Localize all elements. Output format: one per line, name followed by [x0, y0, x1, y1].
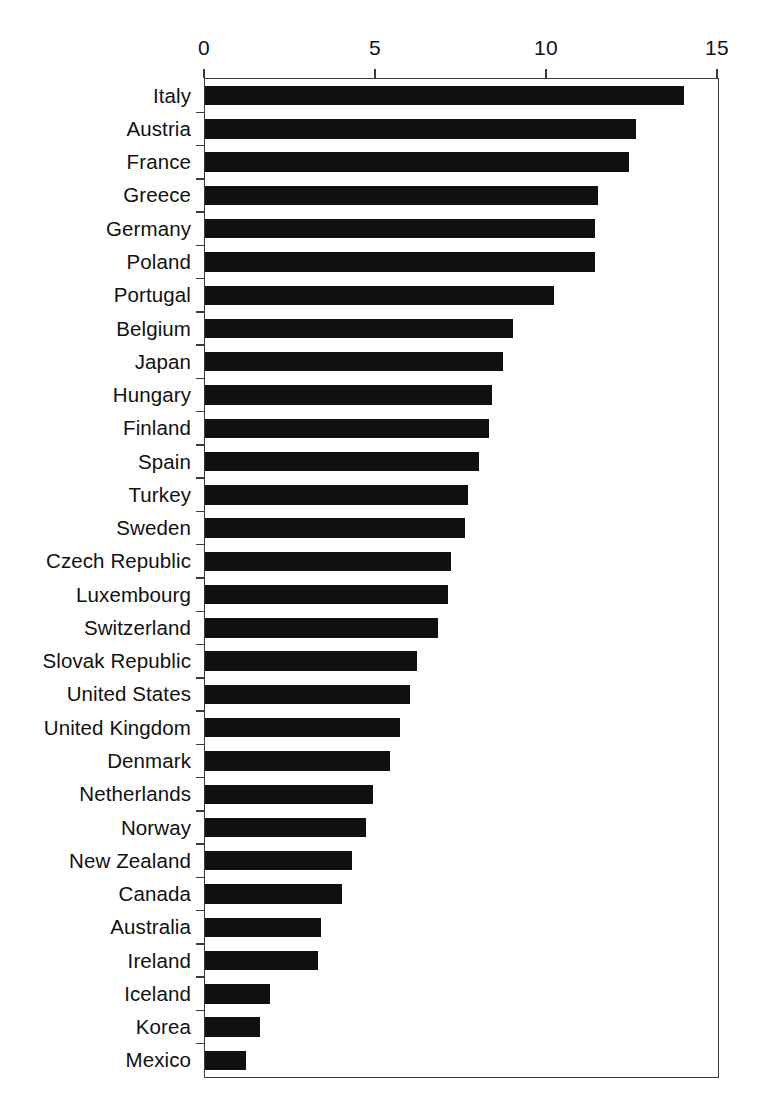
bar	[205, 884, 342, 903]
y-axis-tick	[196, 777, 205, 779]
bar	[205, 319, 513, 338]
bar	[205, 485, 468, 504]
bar	[205, 851, 352, 870]
y-axis-tick	[196, 976, 205, 978]
bar	[205, 419, 489, 438]
y-axis-category-label: Switzerland	[84, 616, 191, 640]
y-axis-tick	[196, 245, 205, 247]
y-axis-category-label: Denmark	[107, 749, 191, 773]
bar	[205, 984, 270, 1003]
y-axis-tick	[196, 145, 205, 147]
bar	[205, 352, 503, 371]
plot-area: ItalyAustriaFranceGreeceGermanyPolandPor…	[204, 78, 719, 1078]
y-axis-tick	[196, 877, 205, 879]
y-axis-tick	[196, 1043, 205, 1045]
bar	[205, 951, 318, 970]
y-axis-tick	[196, 278, 205, 280]
bar	[205, 518, 465, 537]
y-axis-category-label: Australia	[110, 915, 191, 939]
y-axis-category-label: Slovak Republic	[43, 649, 192, 673]
y-axis-category-label: United States	[67, 682, 191, 706]
y-axis-category-label: Sweden	[116, 516, 191, 540]
y-axis-tick	[196, 477, 205, 479]
bar	[205, 152, 629, 171]
bar	[205, 1017, 260, 1036]
y-axis-tick	[196, 112, 205, 114]
y-axis-category-label: Italy	[153, 84, 191, 108]
y-axis-tick	[196, 444, 205, 446]
y-axis-category-label: Finland	[123, 416, 191, 440]
y-axis-category-label: Spain	[138, 450, 191, 474]
y-axis-category-label: Greece	[123, 183, 191, 207]
bar	[205, 585, 448, 604]
y-axis-tick	[196, 1010, 205, 1012]
x-axis-tick-label: 5	[369, 36, 381, 60]
y-axis-tick	[196, 344, 205, 346]
bar	[205, 751, 390, 770]
bar	[205, 685, 410, 704]
y-axis-category-label: Belgium	[116, 317, 191, 341]
y-axis-tick	[196, 511, 205, 513]
y-axis-tick	[196, 577, 205, 579]
y-axis-tick	[196, 211, 205, 213]
bar	[205, 385, 492, 404]
y-axis-category-label: Mexico	[125, 1048, 191, 1072]
x-axis-tick	[716, 69, 718, 78]
y-axis-tick	[196, 611, 205, 613]
y-axis-tick	[196, 544, 205, 546]
y-axis-category-label: Iceland	[124, 982, 191, 1006]
y-axis-tick	[196, 910, 205, 912]
y-axis-category-label: Hungary	[113, 383, 191, 407]
bar	[205, 918, 321, 937]
y-axis-tick	[196, 710, 205, 712]
bar	[205, 219, 595, 238]
bar	[205, 818, 366, 837]
bar	[205, 785, 373, 804]
bar	[205, 452, 479, 471]
bar	[205, 552, 451, 571]
y-axis-tick	[196, 677, 205, 679]
y-axis-tick	[196, 378, 205, 380]
bar	[205, 651, 417, 670]
y-axis-category-label: Netherlands	[79, 782, 191, 806]
y-axis-tick	[196, 311, 205, 313]
bar	[205, 186, 598, 205]
x-axis-tick-label: 0	[198, 36, 210, 60]
y-axis-category-label: France	[127, 150, 191, 174]
bar	[205, 618, 438, 637]
y-axis-tick	[196, 843, 205, 845]
y-axis-category-label: Ireland	[128, 949, 191, 973]
x-axis-tick	[203, 69, 205, 78]
y-axis-category-label: Canada	[119, 882, 191, 906]
y-axis-tick	[196, 744, 205, 746]
x-axis-tick-label: 15	[705, 36, 729, 60]
bar	[205, 252, 595, 271]
bar	[205, 286, 554, 305]
y-axis-category-label: Luxembourg	[76, 583, 191, 607]
y-axis-category-label: Turkey	[129, 483, 192, 507]
y-axis-category-label: Austria	[126, 117, 191, 141]
x-axis-tick	[545, 69, 547, 78]
y-axis-category-label: Japan	[135, 350, 191, 374]
y-axis-category-label: New Zealand	[69, 849, 191, 873]
y-axis-tick	[196, 178, 205, 180]
bar	[205, 86, 684, 105]
y-axis-tick	[196, 943, 205, 945]
bar-chart: ItalyAustriaFranceGreeceGermanyPolandPor…	[0, 0, 760, 1108]
x-axis-tick	[374, 69, 376, 78]
x-axis-tick-label: 10	[534, 36, 558, 60]
y-axis-category-label: Norway	[121, 816, 191, 840]
y-axis-category-label: Czech Republic	[46, 549, 191, 573]
y-axis-category-label: Poland	[127, 250, 191, 274]
y-axis-category-label: Korea	[136, 1015, 191, 1039]
bar	[205, 119, 636, 138]
y-axis-tick	[196, 810, 205, 812]
y-axis-category-label: Portugal	[114, 283, 191, 307]
y-axis-tick	[196, 644, 205, 646]
bar	[205, 1051, 246, 1070]
y-axis-category-label: United Kingdom	[44, 716, 191, 740]
y-axis-category-label: Germany	[106, 217, 191, 241]
bar	[205, 718, 400, 737]
y-axis-tick	[196, 411, 205, 413]
